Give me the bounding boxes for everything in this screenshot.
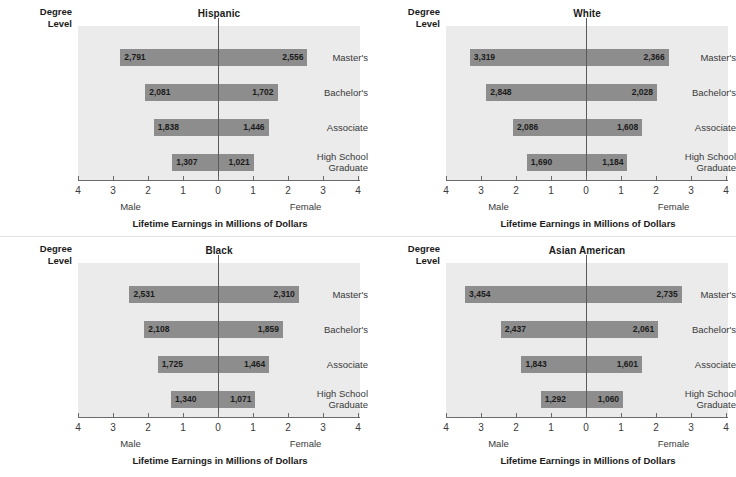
bar-value-female: 2,556 [282,52,303,62]
x-axis-tick [656,413,657,417]
x-axis-tick [113,176,114,180]
bar-male: 3,319 [470,49,586,66]
y-axis-title: DegreeLevel [368,6,440,30]
x-axis-tick-label: 4 [716,422,736,433]
y-axis-title-line1: Degree [0,243,72,255]
x-axis-tick-label: 4 [68,422,88,433]
bar-value-female: 1,608 [617,122,638,132]
x-axis-tick-label: 4 [716,185,736,196]
x-axis-tick-label: 3 [681,422,701,433]
bar-value-male: 1,843 [525,359,546,369]
x-axis-line [446,417,728,418]
row-label: Associate [664,359,736,370]
x-axis-tick [691,413,692,417]
x-axis-line [78,180,360,181]
row-label-line1: Master's [664,52,736,63]
row-label-line2: Graduate [296,162,368,173]
male-axis-label: Male [101,438,161,449]
x-axis-tick [78,413,79,417]
x-axis-tick-label: 3 [313,185,333,196]
bar-value-female: 1,702 [252,87,273,97]
x-axis-tick-label: 3 [103,422,123,433]
x-axis-tick [78,176,79,180]
row-label: Master's [664,52,736,63]
x-axis-tick [516,413,517,417]
x-axis-tick [183,176,184,180]
y-axis-title: DegreeLevel [0,6,72,30]
x-axis-tick [481,413,482,417]
x-axis-tick [656,176,657,180]
bar-value-female: 1,060 [598,394,619,404]
y-axis-title-line1: Degree [0,6,72,18]
x-axis-tick [183,413,184,417]
x-axis-tick [551,413,552,417]
row-label-line1: Associate [664,122,736,133]
bar-value-female: 2,366 [644,52,665,62]
x-axis-tick-label: 4 [348,185,368,196]
x-axis-tick [113,413,114,417]
x-axis-tick-label: 1 [611,185,631,196]
bar-value-male: 2,108 [148,324,169,334]
x-axis-tick [446,176,447,180]
x-axis-tick-label: 4 [436,185,456,196]
bar-male: 1,838 [154,119,218,136]
x-axis-tick-label: 1 [243,422,263,433]
bar-value-male: 2,848 [490,87,511,97]
x-axis-tick-label: 0 [576,422,596,433]
male-axis-label: Male [469,438,529,449]
bar-female: 1,071 [218,391,255,408]
x-axis-tick-label: 1 [173,185,193,196]
row-label-line1: Associate [664,359,736,370]
row-label-line1: High School [664,151,736,162]
bar-male: 2,791 [120,49,218,66]
x-axis-tick-label: 0 [576,185,596,196]
x-axis-tick [148,413,149,417]
bar-male: 1,340 [171,391,218,408]
y-axis-title: DegreeLevel [368,243,440,267]
y-axis-title-line2: Level [0,255,72,267]
x-axis-tick [586,176,587,180]
row-label-line1: High School [296,151,368,162]
row-label: Associate [296,359,368,370]
row-label: Master's [296,289,368,300]
x-axis-tick [726,413,727,417]
x-axis-tick-label: 2 [646,185,666,196]
bar-male: 1,843 [521,356,586,373]
bar-value-female: 1,464 [244,359,265,369]
x-axis-tick-label: 2 [646,422,666,433]
panel-title: Asian American [446,245,728,256]
x-axis-tick-label: 1 [541,185,561,196]
x-axis-tick-label: 2 [506,185,526,196]
bar-value-female: 2,310 [274,289,295,299]
x-axis-tick-label: 3 [103,185,123,196]
bar-female: 2,028 [586,84,657,101]
x-axis-tick-label: 0 [208,185,228,196]
bar-female: 1,601 [586,356,642,373]
bar-male: 2,081 [145,84,218,101]
x-axis-title: Lifetime Earnings in Millions of Dollars [446,455,730,466]
x-axis-title: Lifetime Earnings in Millions of Dollars [446,218,730,229]
x-axis-tick [358,413,359,417]
bar-value-male: 1,725 [162,359,183,369]
bar-value-female: 1,446 [243,122,264,132]
bar-value-male: 2,081 [149,87,170,97]
row-label: Bachelor's [664,324,736,335]
row-label-line1: Associate [296,359,368,370]
bar-male: 2,108 [144,321,218,338]
x-axis-tick-label: 3 [313,422,333,433]
row-label: Associate [296,122,368,133]
x-axis-tick [446,413,447,417]
y-axis-title: DegreeLevel [0,243,72,267]
x-axis-tick [621,413,622,417]
x-axis-tick-label: 2 [278,185,298,196]
x-axis-tick [218,176,219,180]
x-axis-tick [551,176,552,180]
row-label-line1: Bachelor's [296,324,368,335]
x-axis-tick [288,413,289,417]
bar-value-male: 3,454 [469,289,490,299]
x-axis-tick [516,176,517,180]
bar-female: 1,859 [218,321,283,338]
x-axis-tick-label: 3 [681,185,701,196]
x-axis-title: Lifetime Earnings in Millions of Dollars [78,218,362,229]
row-label: High SchoolGraduate [664,151,736,173]
